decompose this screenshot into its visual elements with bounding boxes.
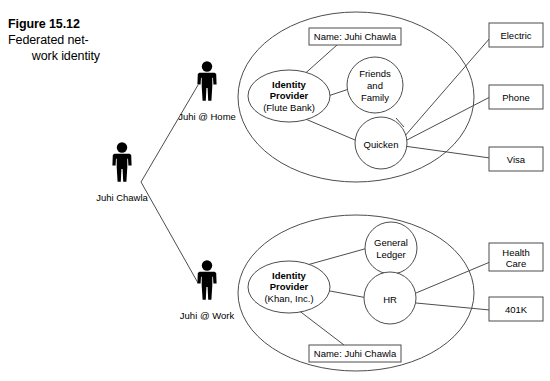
work-name-box-label: Name: Juhi Chawla <box>309 348 401 359</box>
home-service-friends-and-family-line-3: Family <box>345 92 405 103</box>
home-service-quicken-label: Quicken <box>351 139 411 150</box>
external-box-health-care-line-1: Health <box>489 247 543 258</box>
external-box-401k-label: 401K <box>489 304 543 315</box>
link-home-quicken-phone <box>405 97 490 141</box>
home-service-friends-and-family-line-2: and <box>345 80 405 91</box>
branch-to-home <box>141 85 198 182</box>
person-label-juhi-at-work: Juhi @ Work <box>167 310 247 321</box>
person-icon-juhi-chawla <box>112 142 131 182</box>
link-work-hr-401k <box>416 303 490 310</box>
home-identity-provider-line-3: (Flute Bank) <box>249 102 329 113</box>
external-box-health-care-line-2: Care <box>489 258 543 269</box>
external-box-visa-label: Visa <box>489 154 543 165</box>
link-work-hr-health-care <box>416 262 490 293</box>
home-service-friends-and-family-line-1: Friends <box>345 68 405 79</box>
person-icons <box>112 61 216 299</box>
work-identity-provider-line-3: (Khan, Inc.) <box>249 293 329 304</box>
link-home-quicken-electric <box>404 38 490 137</box>
person-label-juhi-chawla: Juhi Chawla <box>82 192 162 203</box>
work-identity-provider-line-1: Identity <box>249 270 329 281</box>
work-service-general-ledger-line-2: Ledger <box>361 249 421 260</box>
home-identity-provider-line-1: Identity <box>249 79 329 90</box>
figure-diagram: Figure 15.12 Federated net- work identit… <box>0 0 550 381</box>
home-identity-provider-line-2: Provider <box>249 90 329 101</box>
person-icon-juhi-at-work <box>197 260 216 300</box>
link-home-quicken-visa <box>404 146 490 158</box>
person-label-juhi-at-home: Juhi @ Home <box>167 111 247 122</box>
work-service-hr-label: HR <box>360 294 420 305</box>
work-service-general-ledger-line-1: General <box>361 237 421 248</box>
diagram-canvas <box>0 0 550 381</box>
external-box-phone-label: Phone <box>489 92 543 103</box>
work-identity-provider-line-2: Provider <box>249 281 329 292</box>
home-name-box-label: Name: Juhi Chawla <box>309 31 401 42</box>
person-icon-juhi-at-home <box>197 61 216 101</box>
external-box-electric-label: Electric <box>489 30 543 41</box>
